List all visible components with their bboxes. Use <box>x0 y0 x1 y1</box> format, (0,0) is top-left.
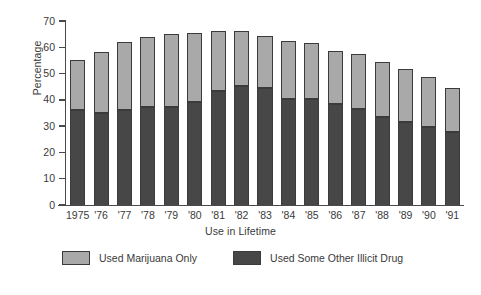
bar-segment-other-illicit-drug <box>421 127 436 205</box>
bar-segment-marijuana-only <box>281 41 296 99</box>
chart-figure: Percentage 010203040506070 1975'76'77'78… <box>0 0 481 295</box>
bar-segment-marijuana-only <box>164 34 179 107</box>
bar-segment-marijuana-only <box>117 42 132 110</box>
bar-segment-other-illicit-drug <box>281 99 296 205</box>
y-tick-mark <box>59 204 66 205</box>
bar-84 <box>281 41 296 205</box>
bar-90 <box>421 77 436 205</box>
bar-segment-other-illicit-drug <box>328 104 343 205</box>
bar-segment-marijuana-only <box>94 52 109 112</box>
y-tick-mark <box>59 47 66 48</box>
bar-segment-marijuana-only <box>398 69 413 122</box>
legend-swatch-icon <box>233 251 261 265</box>
bar-83 <box>257 36 272 205</box>
bar-segment-other-illicit-drug <box>164 107 179 205</box>
bar-segment-other-illicit-drug <box>304 99 319 205</box>
bar-segment-marijuana-only <box>234 31 249 86</box>
bar-segment-marijuana-only <box>328 51 343 104</box>
bar-segment-marijuana-only <box>304 43 319 98</box>
bar-segment-other-illicit-drug <box>94 113 109 205</box>
y-tick-mark <box>59 125 66 126</box>
bar-segment-other-illicit-drug <box>445 132 460 205</box>
bar-segment-marijuana-only <box>351 54 366 109</box>
bar-77 <box>117 42 132 205</box>
bar-78 <box>140 37 155 205</box>
bar-89 <box>398 69 413 205</box>
y-tick-mark <box>59 178 66 179</box>
bar-segment-other-illicit-drug <box>117 110 132 205</box>
bar-85 <box>304 43 319 205</box>
y-tick-mark <box>59 152 66 153</box>
bar-segment-marijuana-only <box>211 31 226 91</box>
y-tick-label: 70 <box>43 14 55 29</box>
x-tick-label: '91 <box>432 209 472 221</box>
bar-segment-marijuana-only <box>70 60 85 110</box>
y-tick-mark <box>59 99 66 100</box>
y-axis-title: Percentage <box>31 0 43 143</box>
y-tick-label: 40 <box>43 92 55 107</box>
bar-87 <box>351 54 366 205</box>
bar-segment-other-illicit-drug <box>375 117 390 205</box>
y-tick-label: 30 <box>43 119 55 134</box>
bar-segment-other-illicit-drug <box>398 122 413 205</box>
bar-segment-other-illicit-drug <box>234 86 249 205</box>
bar-segment-marijuana-only <box>375 62 390 117</box>
x-axis-title: Use in Lifetime <box>0 225 481 237</box>
legend-spacer <box>197 258 233 259</box>
bar-segment-other-illicit-drug <box>351 109 366 205</box>
plot-area <box>66 21 464 205</box>
bar-segment-other-illicit-drug <box>211 91 226 205</box>
chart-legend: Used Marijuana OnlyUsed Some Other Illic… <box>62 251 403 265</box>
legend-label: Used Some Other Illicit Drug <box>270 252 403 264</box>
bar-segment-marijuana-only <box>445 88 460 133</box>
y-tick-label: 50 <box>43 66 55 81</box>
bar-segment-marijuana-only <box>140 37 155 107</box>
legend-entry: Used Marijuana Only <box>62 251 197 265</box>
y-tick-mark <box>59 20 66 21</box>
bar-80 <box>187 33 202 205</box>
bar-segment-other-illicit-drug <box>140 107 155 205</box>
bar-88 <box>375 62 390 205</box>
legend-label: Used Marijuana Only <box>99 252 197 264</box>
y-tick-label: 10 <box>43 171 55 186</box>
bar-segment-marijuana-only <box>421 77 436 128</box>
bar-segment-other-illicit-drug <box>70 110 85 205</box>
bar-79 <box>164 34 179 205</box>
bar-91 <box>445 88 460 205</box>
bar-segment-marijuana-only <box>187 33 202 102</box>
bar-76 <box>94 52 109 205</box>
bar-segment-other-illicit-drug <box>187 102 202 205</box>
bar-81 <box>211 31 226 205</box>
legend-entry: Used Some Other Illicit Drug <box>233 251 403 265</box>
bar-segment-marijuana-only <box>257 36 272 89</box>
legend-swatch-icon <box>62 251 90 265</box>
y-tick-label: 20 <box>43 145 55 160</box>
bar-82 <box>234 31 249 205</box>
y-tick-mark <box>59 73 66 74</box>
bar-1975 <box>70 60 85 205</box>
bar-segment-other-illicit-drug <box>257 88 272 205</box>
bar-86 <box>328 51 343 205</box>
y-tick-label: 60 <box>43 40 55 55</box>
y-tick-label: 0 <box>49 198 55 213</box>
